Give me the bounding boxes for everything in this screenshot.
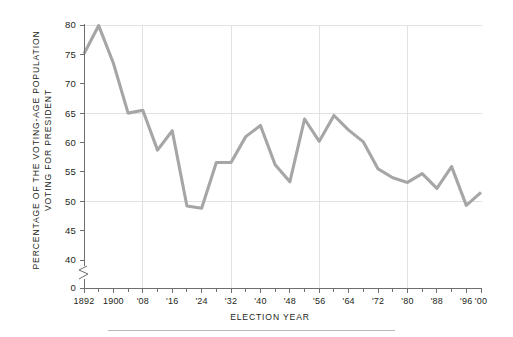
y-tick-label: 45 [65, 225, 76, 236]
x-tick-label: '00 [475, 296, 487, 306]
x-axis: 18921900'08'16'24'32'40'48'56'64'72'80'8… [74, 288, 488, 306]
x-tick-label: '48 [284, 296, 296, 306]
turnout-data-line [84, 26, 481, 209]
x-tick-label: '16 [166, 296, 178, 306]
x-tick-label: '80 [401, 296, 413, 306]
x-tick-label: 1900 [103, 296, 124, 306]
y-tick-label: 55 [65, 166, 76, 177]
x-tick-label: '72 [372, 296, 384, 306]
voter-turnout-line-chart: 0404550556065707580 18921900'08'16'24'32… [0, 0, 513, 337]
y-tick-label: 50 [65, 196, 76, 207]
x-tick-label: '24 [195, 296, 207, 306]
y-tick-label: 65 [65, 108, 76, 119]
x-tick-label: '64 [342, 296, 354, 306]
x-tick-label: '40 [254, 296, 266, 306]
chart-figure: 0404550556065707580 18921900'08'16'24'32… [0, 0, 513, 337]
x-tick-label: '32 [225, 296, 237, 306]
y-tick-label: 0 [71, 282, 76, 293]
x-tick-label: '08 [137, 296, 149, 306]
x-tick-label: '56 [313, 296, 325, 306]
footer-divider [108, 330, 395, 331]
axis-break-mark [79, 266, 88, 279]
y-axis: 0404550556065707580 [65, 19, 88, 293]
y-tick-label: 80 [65, 19, 76, 30]
x-axis-title: ELECTION YEAR [230, 312, 310, 322]
y-tick-label: 60 [65, 137, 76, 148]
x-tick-label: 1892 [74, 296, 95, 306]
x-tick-label: '96 [460, 296, 472, 306]
y-tick-label: 70 [65, 78, 76, 89]
y-axis-title-line2: VOTING FOR PRESIDENT [43, 89, 53, 211]
y-axis-title-line1: PERCENTAGE OF THE VOTING-AGE POPULATION [31, 31, 41, 270]
plot-area [84, 26, 481, 209]
y-tick-label: 75 [65, 49, 76, 60]
gridlines-group [84, 25, 482, 288]
x-tick-label: '88 [431, 296, 443, 306]
y-tick-label: 40 [65, 254, 76, 265]
